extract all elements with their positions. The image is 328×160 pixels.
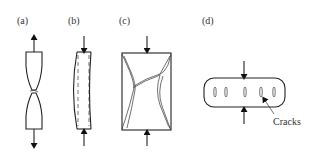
internal-cracks	[214, 87, 275, 97]
bulged-right-edge	[90, 52, 92, 129]
specimen-lower-half	[26, 93, 42, 129]
specimen-upper-half	[26, 52, 42, 90]
panel-label-a: (a)	[17, 15, 28, 27]
panel-c-shear-fracture	[122, 36, 171, 146]
panel-label-c: (c)	[119, 15, 130, 27]
cracks-label: Cracks	[273, 116, 301, 127]
bulged-left-edge	[74, 52, 78, 129]
panel-label-d: (d)	[202, 15, 214, 27]
failure-modes-figure: (a) (b) (c) (d)	[0, 0, 328, 160]
panel-d-disk-compression: Cracks	[204, 61, 301, 127]
crack-right	[158, 75, 172, 130]
panel-a-tensile-specimen	[26, 37, 42, 146]
fracture-line	[30, 90, 38, 92]
panel-label-b: (b)	[68, 15, 80, 27]
panel-b-compression-specimen	[74, 36, 92, 146]
